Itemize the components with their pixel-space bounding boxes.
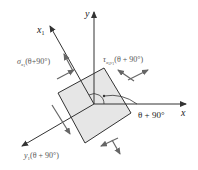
x-axis-label: x (180, 107, 186, 118)
stress-element-diagram: y x x1 σx1(θ+90°) τx1y1(θ + 90°) y1(θ + … (0, 0, 198, 170)
arrow-bottom-2 (112, 140, 120, 154)
sigma-arrow-upper-left-1 (57, 70, 74, 79)
y1-label: y1(θ + 90°) (23, 151, 59, 161)
arrow-bottom-1 (101, 138, 118, 146)
sigma-arrow-upper-left-2 (64, 54, 73, 71)
tau-arrow-upper-right-2 (128, 70, 148, 80)
x1-axis-label: x1 (36, 24, 44, 36)
tau-arrow-upper-right-1 (118, 70, 134, 81)
angle-dot (103, 95, 105, 97)
tau-label: τx1y1(θ + 90°) (103, 55, 144, 66)
y-axis-label: y (84, 8, 90, 19)
sigma-label: σx1(θ+90°) (17, 57, 50, 68)
angle-label: θ + 90° (138, 110, 165, 120)
